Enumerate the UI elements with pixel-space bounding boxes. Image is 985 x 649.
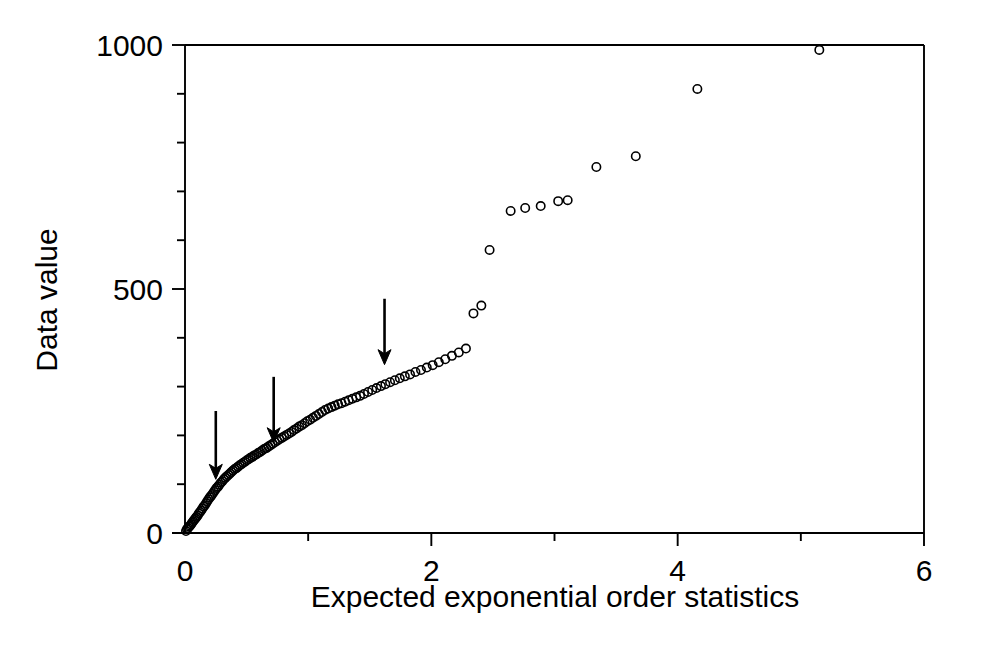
y-tick-label-500: 500 xyxy=(113,273,163,306)
y-tick-label-1000: 1000 xyxy=(96,29,163,62)
x-tick-label-6: 6 xyxy=(916,554,933,587)
x-tick-label-0: 0 xyxy=(177,554,194,587)
plot-background xyxy=(0,0,985,649)
qq-plot-figure: 050010000246 Expected exponential order … xyxy=(0,0,985,649)
scatter-plot-svg: 050010000246 Expected exponential order … xyxy=(0,0,985,649)
y-axis-label: Data value xyxy=(30,228,63,371)
x-axis-label: Expected exponential order statistics xyxy=(311,580,800,613)
figure-root: 050010000246 Expected exponential order … xyxy=(0,0,985,649)
y-tick-label-0: 0 xyxy=(146,517,163,550)
